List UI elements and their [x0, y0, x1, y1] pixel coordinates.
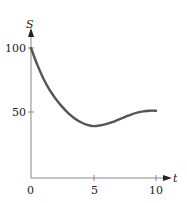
x-tick-label-5: 5 — [91, 184, 98, 197]
chart: S t 0 5 10 50 100 — [0, 0, 187, 203]
y-tick-label-50: 50 — [12, 106, 26, 119]
y-tick-label-100: 100 — [5, 42, 26, 55]
x-axis-arrow-icon — [163, 175, 172, 181]
x-tick-label-10: 10 — [149, 184, 163, 197]
x-axis-label: t — [173, 172, 178, 185]
data-curve — [31, 48, 156, 126]
y-axis-label: S — [26, 18, 34, 31]
x-tick-label-0: 0 — [27, 184, 34, 197]
